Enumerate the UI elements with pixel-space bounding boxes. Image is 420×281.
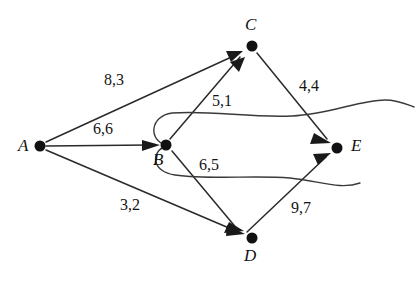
node-label-c: C bbox=[245, 16, 256, 33]
node-label-d: D bbox=[244, 247, 256, 264]
edge-label-c-e: 4,4 bbox=[299, 78, 319, 94]
node-d-dot[interactable] bbox=[247, 233, 258, 244]
wavy-lower-path bbox=[156, 146, 360, 186]
node-e-dot[interactable] bbox=[332, 143, 343, 154]
edge-d-e-line bbox=[247, 157, 326, 232]
node-b-dot[interactable] bbox=[161, 140, 172, 151]
edge-label-b-d: 6,5 bbox=[199, 157, 219, 173]
wavy-upper-path bbox=[154, 100, 414, 145]
edge-label-a-d: 3,2 bbox=[120, 197, 140, 213]
node-label-b: B bbox=[153, 151, 163, 168]
arrowhead-b-d bbox=[224, 222, 244, 233]
wavy-paths-group bbox=[154, 100, 414, 186]
node-a-dot[interactable] bbox=[35, 141, 46, 152]
edge-label-b-c: 5,1 bbox=[212, 93, 232, 109]
arrowhead-c-e bbox=[310, 133, 331, 144]
edge-a-b-line bbox=[46, 145, 150, 146]
edge-label-d-e: 9,7 bbox=[291, 200, 311, 216]
node-label-e: E bbox=[351, 137, 361, 154]
edge-label-a-b: 6,6 bbox=[93, 121, 113, 137]
graph-diagram: A B C D E 8,3 6,6 3,2 5,1 6,5 4,4 9,7 bbox=[0, 0, 420, 281]
edge-c-e-line bbox=[257, 53, 327, 139]
arrowhead-d-e bbox=[313, 153, 331, 165]
edges-group bbox=[46, 53, 327, 232]
node-label-a: A bbox=[18, 137, 28, 154]
node-c-dot[interactable] bbox=[247, 41, 258, 52]
edge-a-c-line bbox=[46, 54, 238, 142]
edge-label-a-c: 8,3 bbox=[104, 72, 124, 88]
